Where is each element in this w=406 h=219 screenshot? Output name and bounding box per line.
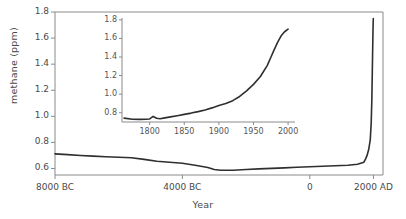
main-y-tick-label: 1.0	[13, 110, 49, 120]
main-y-tick-label: 1.8	[13, 6, 49, 16]
main-x-tick-label: 8000 BC	[19, 182, 91, 192]
inset-y-tick-label: 1.8	[89, 15, 117, 24]
main-y-tick-marks	[51, 12, 55, 168]
main-x-tick-label: 4000 BC	[146, 182, 218, 192]
main-y-tick-label: 0.8	[13, 136, 49, 146]
inset-x-tick-label: 2000	[268, 127, 308, 136]
main-y-tick-label: 1.4	[13, 58, 49, 68]
main-y-tick-label: 1.2	[13, 84, 49, 94]
inset-y-tick-label: 1.2	[89, 71, 117, 80]
main-y-tick-label: 1.6	[13, 32, 49, 42]
main-x-tick-label: 2000 AD	[337, 182, 406, 192]
inset-y-tick-label: 1.4	[89, 52, 117, 61]
inset-y-tick-label: 1.6	[89, 33, 117, 42]
main-y-tick-label: 0.6	[13, 162, 49, 172]
methane-inset-line	[124, 29, 288, 119]
x-axis-title: Year	[0, 199, 406, 210]
methane-concentration-chart: methane (ppm) Year 0.60.81.01.21.41.61.8…	[0, 0, 406, 219]
main-x-tick-label: 0	[274, 182, 346, 192]
inset-y-tick-label: 0.8	[89, 108, 117, 117]
main-x-tick-marks	[55, 175, 373, 179]
inset-axes	[122, 18, 295, 122]
inset-y-tick-label: 1.0	[89, 89, 117, 98]
